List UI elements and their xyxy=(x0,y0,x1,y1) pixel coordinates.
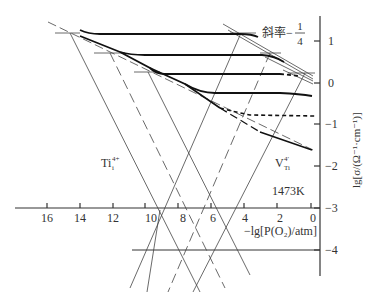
ti-superscript: 4+ xyxy=(112,155,120,163)
y-tick-label: −3 xyxy=(325,201,338,215)
temperature-label: 1473K xyxy=(272,184,305,198)
x-tick-label: 2 xyxy=(277,211,283,225)
curve-3-dash xyxy=(280,74,300,76)
y-tick-label: 1 xyxy=(328,34,334,48)
ti-annotation: Ti 4+ i xyxy=(101,155,120,172)
y-tick-label: 0 xyxy=(328,76,334,90)
x-tick-label: 12 xyxy=(107,211,119,225)
x-tick-label: 4 xyxy=(242,211,248,225)
x-tick-labels: 16 14 12 10 8 6 4 2 0 xyxy=(41,211,316,225)
v-annotation: V 4′ Ti xyxy=(275,155,290,172)
ti-subscript: i xyxy=(112,164,114,172)
ti-label: Ti xyxy=(101,156,112,170)
x-tick-label: 16 xyxy=(41,211,53,225)
x-tick-label: 10 xyxy=(145,211,157,225)
x-tick-label: 0 xyxy=(310,211,316,225)
slope-label: 斜率− xyxy=(262,25,293,40)
y-tick-label: −2 xyxy=(325,159,338,173)
curve-2 xyxy=(80,36,284,62)
x-tick-label: 14 xyxy=(74,211,86,225)
curve-6-dash xyxy=(220,108,260,132)
curve-5-dotted xyxy=(220,108,315,116)
y-tick-label: −4 xyxy=(325,243,338,257)
x-tick-label: 6 xyxy=(210,211,216,225)
v-superscript: 4′ xyxy=(284,155,290,163)
x-tick-label: 8 xyxy=(180,211,186,225)
curve-1 xyxy=(80,30,258,37)
y-axis-title: lg[σ/(Ω⁻¹·cm⁻¹)] xyxy=(350,112,363,188)
x-axis-title: −lg[P(O₂)/atm] xyxy=(244,224,317,238)
y-tick-label: −1 xyxy=(325,117,338,131)
v-label: V xyxy=(275,156,284,170)
slope-annotation: 斜率− 1 4 xyxy=(262,20,305,47)
slope-denominator: 4 xyxy=(297,35,303,47)
slope-numerator: 1 xyxy=(297,20,303,32)
v-subscript: Ti xyxy=(284,164,290,172)
defect-conductivity-chart: 1 0 −1 −2 −3 −4 16 14 12 10 8 6 4 2 0 −l… xyxy=(0,0,374,292)
y-tick-labels: 1 0 −1 −2 −3 −4 xyxy=(325,34,338,257)
